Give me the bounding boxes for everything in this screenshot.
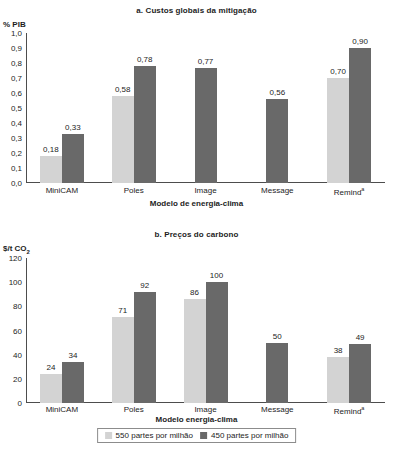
bar-image-450[interactable]: 100 — [206, 282, 228, 403]
category-label-minicam: MiniCAM — [46, 186, 78, 195]
y-tick-label: 0,3 — [11, 134, 22, 143]
bar-minicam-550[interactable]: 24 — [40, 374, 62, 403]
bar-message-450[interactable]: 50 — [266, 343, 288, 403]
bar-poles-450[interactable]: 0,78 — [134, 66, 156, 183]
y-tick-label: 0 — [18, 399, 22, 408]
category-label-message: Message — [261, 186, 293, 195]
panel-a-y-ticks: 0,00,10,20,30,40,50,60,70,80,91,0 — [0, 33, 26, 183]
bar-value-label: 0,18 — [43, 145, 59, 155]
category-label-poles: Poles — [124, 186, 144, 195]
bar-group: 2434 — [40, 258, 84, 403]
bar-remind-450[interactable]: 0,90 — [349, 48, 371, 183]
category-label-text: Image — [194, 405, 216, 414]
bar-minicam-450[interactable]: 0,33 — [62, 134, 84, 184]
panel-b-plot-area: 2434719286100503849 — [26, 258, 385, 403]
category-label-poles: Poles — [124, 405, 144, 414]
panel-a-title: a. Custos globais da mitigação — [0, 6, 393, 15]
bar-value-label: 0,58 — [115, 85, 131, 95]
bar-value-label: 0,78 — [137, 55, 153, 65]
y-tick-label: 80 — [13, 302, 22, 311]
bar-poles-550[interactable]: 0,58 — [112, 96, 134, 183]
bar-value-label: 71 — [118, 306, 127, 316]
y-tick-label: 0,2 — [11, 149, 22, 158]
bar-value-label: 0,33 — [65, 123, 81, 133]
category-footnote-marker: a — [361, 405, 364, 411]
bar-remind-550[interactable]: 38 — [327, 357, 349, 403]
y-tick-label: 1,0 — [11, 29, 22, 38]
panel-a-plot-area: 0,180,330,580,780,770,560,700,90 — [26, 33, 385, 183]
panel-a-bars: 0,180,330,580,780,770,560,700,90 — [26, 33, 385, 183]
category-label-text: MiniCAM — [46, 186, 78, 195]
bar-value-label: 49 — [356, 333, 365, 343]
y-tick-label: 120 — [9, 254, 22, 263]
bar-value-label: 38 — [334, 346, 343, 356]
category-label-message: Message — [261, 405, 293, 414]
bar-value-label: 92 — [140, 281, 149, 291]
category-label-text: Remind — [334, 188, 362, 197]
legend-label: 550 partes por milhão — [116, 431, 193, 440]
category-label-text: Image — [194, 186, 216, 195]
y-tick-label: 40 — [13, 350, 22, 359]
y-tick-label: 0,0 — [11, 179, 22, 188]
y-tick-label: 20 — [13, 374, 22, 383]
y-tick-label: 0,1 — [11, 164, 22, 173]
legend-item-550[interactable]: 550 partes por milhão — [105, 431, 193, 440]
panel-b-x-label: Modelo energia-clima — [0, 415, 393, 424]
bar-group: 0,180,33 — [40, 33, 84, 183]
category-label-image: Image — [194, 186, 216, 195]
bar-remind-450[interactable]: 49 — [349, 344, 371, 403]
bar-image-550[interactable]: 86 — [184, 299, 206, 403]
bar-value-label: 0,70 — [330, 67, 346, 77]
bar-group: 50 — [266, 258, 288, 403]
bar-value-label: 0,77 — [198, 57, 214, 67]
bar-group: 0,700,90 — [327, 33, 371, 183]
y-tick-label: 0,9 — [11, 44, 22, 53]
dark-gray-square-icon — [200, 432, 207, 439]
bar-value-label: 50 — [273, 332, 282, 342]
panel-b-axis-unit-text: $/t CO — [3, 244, 27, 253]
legend-item-450[interactable]: 450 partes por milhão — [200, 431, 288, 440]
legend-label: 450 partes por milhão — [211, 431, 288, 440]
y-tick-label: 100 — [9, 278, 22, 287]
bar-value-label: 24 — [46, 363, 55, 373]
bar-group: 86100 — [184, 258, 228, 403]
chart-legend: 550 partes por milhão450 partes por milh… — [97, 428, 297, 443]
bar-value-label: 86 — [190, 288, 199, 298]
bar-minicam-550[interactable]: 0,18 — [40, 156, 62, 183]
panel-b-bars: 2434719286100503849 — [26, 258, 385, 403]
bar-poles-550[interactable]: 71 — [112, 317, 134, 403]
figure-root: a. Custos globais da mitigação % PIB 0,1… — [0, 0, 393, 450]
bar-remind-550[interactable]: 0,70 — [327, 78, 349, 183]
bar-message-450[interactable]: 0,56 — [266, 99, 288, 183]
panel-b-title: b. Preços do carbono — [0, 230, 393, 239]
category-label-text: Message — [261, 186, 293, 195]
y-tick-label: 0,4 — [11, 119, 22, 128]
bar-group: 7192 — [112, 258, 156, 403]
bar-value-label: 34 — [68, 351, 77, 361]
category-label-text: Message — [261, 405, 293, 414]
category-footnote-marker: a — [361, 186, 364, 192]
category-label-minicam: MiniCAM — [46, 405, 78, 414]
bar-group: 3849 — [327, 258, 371, 403]
y-tick-label: 0,8 — [11, 59, 22, 68]
category-label-remind: Reminda — [334, 186, 365, 197]
y-tick-label: 60 — [13, 326, 22, 335]
panel-b-y-ticks: 020406080100120 — [0, 258, 26, 403]
bar-group: 0,56 — [266, 33, 288, 183]
bar-group: 0,77 — [195, 33, 217, 183]
bar-poles-450[interactable]: 92 — [134, 292, 156, 403]
bar-group: 0,580,78 — [112, 33, 156, 183]
panel-a: a. Custos globais da mitigação % PIB 0,1… — [0, 0, 393, 228]
light-gray-square-icon — [105, 432, 112, 439]
panel-b: b. Preços do carbono $/t CO2 24347192861… — [0, 228, 393, 450]
category-label-text: MiniCAM — [46, 405, 78, 414]
y-tick-label: 0,5 — [11, 104, 22, 113]
y-tick-label: 0,6 — [11, 89, 22, 98]
category-label-image: Image — [194, 405, 216, 414]
panel-a-x-label: Modelo de energia-clima — [0, 199, 393, 208]
category-label-text: Poles — [124, 186, 144, 195]
bar-value-label: 0,90 — [352, 37, 368, 47]
bar-minicam-450[interactable]: 34 — [62, 362, 84, 403]
panel-b-axis-unit-sub: 2 — [27, 249, 30, 255]
bar-image-450[interactable]: 0,77 — [195, 68, 217, 184]
